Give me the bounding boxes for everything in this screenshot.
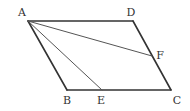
label-e: E bbox=[97, 94, 105, 107]
label-a: A bbox=[17, 6, 27, 19]
label-c: C bbox=[173, 94, 181, 107]
label-f: F bbox=[156, 49, 164, 62]
geometry-diagram: A D B E C F bbox=[0, 0, 190, 111]
label-b: B bbox=[63, 94, 71, 107]
label-d: D bbox=[127, 6, 136, 19]
edge-ba bbox=[28, 21, 67, 90]
